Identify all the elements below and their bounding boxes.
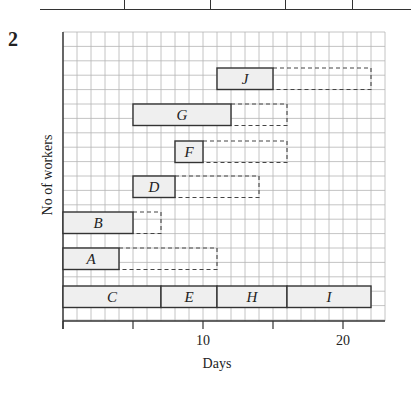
activity-label: E bbox=[183, 289, 193, 305]
activity-label: A bbox=[85, 251, 96, 267]
activity-label: F bbox=[183, 144, 194, 160]
float-box bbox=[273, 68, 371, 90]
activity-label: B bbox=[93, 215, 102, 231]
activity-label: G bbox=[177, 107, 188, 123]
activity-label: I bbox=[326, 289, 333, 305]
activity-label: D bbox=[148, 179, 160, 195]
x-axis-label: Days bbox=[203, 356, 232, 372]
x-tick-label: 10 bbox=[196, 333, 210, 349]
x-tick-label: 20 bbox=[336, 333, 350, 349]
activity-label: C bbox=[107, 289, 118, 305]
y-axis-label: No of workers bbox=[40, 135, 56, 216]
float-box bbox=[119, 248, 217, 270]
activity-label: H bbox=[246, 289, 259, 305]
